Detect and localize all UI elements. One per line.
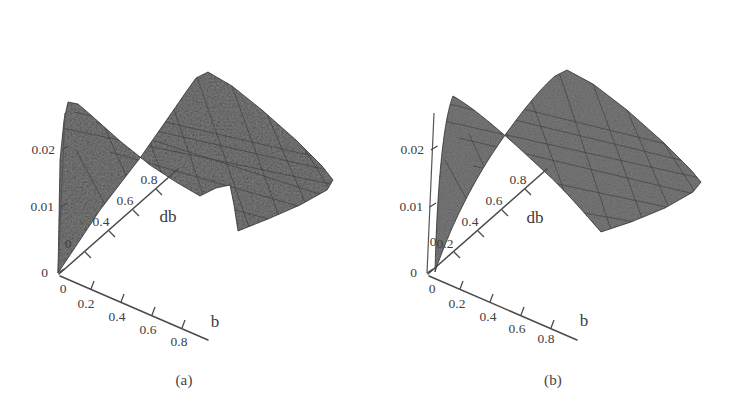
surface-plot-b: 0 0.01 0.02 0 0.2 0.4 0.6 0.8 db	[369, 0, 737, 372]
b-tick-04: 0.4	[109, 309, 126, 324]
b-tick-02: 0.2	[78, 296, 95, 311]
panel-b-caption: (b)	[369, 372, 737, 389]
db-tick-08: 0.8	[141, 172, 158, 187]
db-axis-label: db	[527, 208, 544, 227]
surface-mesh-b	[435, 70, 709, 272]
b-tick-02: 0.2	[449, 296, 466, 311]
db-tick-04: 0.4	[462, 214, 479, 229]
b-tick-08: 0.8	[538, 331, 555, 346]
panel-a-caption: (a)	[0, 372, 368, 389]
panel-b: 0 0.01 0.02 0 0.2 0.4 0.6 0.8 db	[369, 0, 737, 417]
db-tick-08: 0.8	[510, 172, 527, 187]
z-axis-b: 0 0.01 0.02	[399, 113, 437, 280]
b-tick-06: 0.6	[509, 321, 526, 336]
figure-two-panel-surface-plots: 0 0.01 0.02 0 0.4 0.6 0.8 db	[0, 0, 737, 417]
b-axis-a: 0 0.2 0.4 0.6 0.8 b	[60, 276, 220, 349]
b-tick-06: 0.6	[140, 322, 157, 337]
b-tick-04: 0.4	[480, 309, 497, 324]
b-axis-b: 0 0.2 0.4 0.6 0.8 b	[429, 276, 589, 346]
z-tick-0: 0	[41, 265, 48, 280]
z-tick-001: 0.01	[30, 199, 54, 214]
db-tick-0: 0	[430, 234, 437, 249]
db-tick-0: 0	[65, 236, 72, 251]
db-tick-06: 0.6	[486, 193, 503, 208]
b-axis-label: b	[211, 312, 220, 331]
surface-mesh-a	[58, 72, 340, 273]
z-tick-002: 0.02	[400, 142, 424, 157]
b-tick-0: 0	[60, 281, 67, 296]
db-axis-label: db	[160, 207, 177, 226]
db-tick-06: 0.6	[117, 193, 134, 208]
z-tick-002: 0.02	[31, 142, 55, 157]
z-tick-0: 0	[410, 265, 417, 280]
z-tick-001: 0.01	[399, 199, 423, 214]
b-tick-08: 0.8	[171, 334, 188, 349]
panel-a: 0 0.01 0.02 0 0.4 0.6 0.8 db	[0, 0, 368, 417]
db-tick-02: 0.2	[437, 236, 454, 251]
b-tick-0: 0	[429, 281, 436, 296]
db-tick-04: 0.4	[93, 214, 110, 229]
b-axis-label: b	[580, 311, 589, 330]
surface-plot-a: 0 0.01 0.02 0 0.4 0.6 0.8 db	[0, 0, 368, 372]
